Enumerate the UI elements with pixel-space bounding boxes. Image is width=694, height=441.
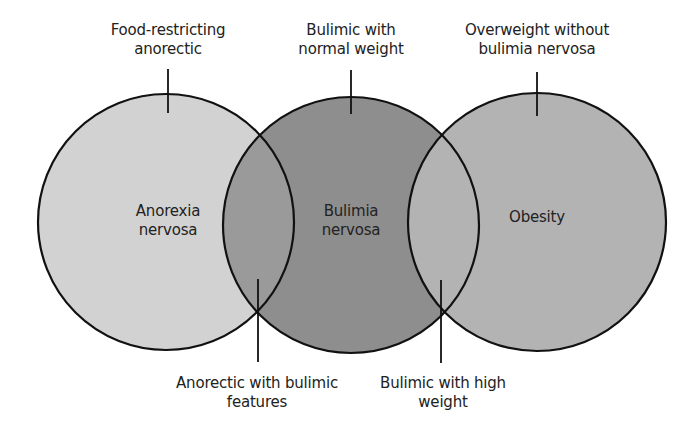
label-bulimic-normal-weight: Bulimic with normal weight bbox=[298, 21, 403, 59]
label-line: normal weight bbox=[298, 40, 403, 59]
label-obesity: Obesity bbox=[509, 208, 565, 227]
label-line: Anorexia bbox=[136, 202, 200, 221]
label-line: Obesity bbox=[509, 208, 565, 227]
label-line: features bbox=[176, 393, 338, 412]
label-line: Bulimia bbox=[322, 202, 381, 221]
label-line: nervosa bbox=[136, 221, 200, 240]
label-bulimic-high-weight: Bulimic with high weight bbox=[380, 374, 506, 412]
label-line: Anorectic with bulimic bbox=[176, 374, 338, 393]
label-line: nervosa bbox=[322, 221, 381, 240]
label-overweight-without-bulimia: Overweight without bulimia nervosa bbox=[465, 21, 609, 59]
label-line: bulimia nervosa bbox=[465, 40, 609, 59]
label-line: Food-restricting bbox=[111, 21, 226, 40]
label-anorexia-nervosa: Anorexia nervosa bbox=[136, 202, 200, 240]
label-food-restricting-anorectic: Food-restricting anorectic bbox=[111, 21, 226, 59]
label-line: Bulimic with bbox=[298, 21, 403, 40]
label-line: Bulimic with high bbox=[380, 374, 506, 393]
label-anorectic-bulimic-features: Anorectic with bulimic features bbox=[176, 374, 338, 412]
label-line: weight bbox=[380, 393, 506, 412]
label-bulimia-nervosa: Bulimia nervosa bbox=[322, 202, 381, 240]
label-line: Overweight without bbox=[465, 21, 609, 40]
label-line: anorectic bbox=[111, 40, 226, 59]
